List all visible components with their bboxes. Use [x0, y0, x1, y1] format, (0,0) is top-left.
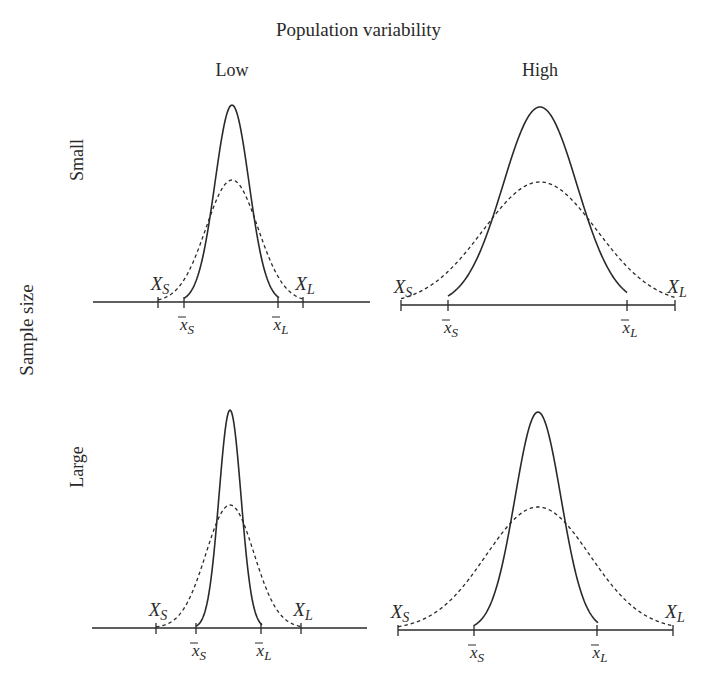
- tick-label-xbar-l: xL: [273, 315, 289, 337]
- tick-label-xbar-s: xS: [469, 643, 485, 665]
- tick-label-x-l: XL: [664, 601, 685, 625]
- sampling-curve-solid: [196, 410, 262, 626]
- sampling-curve-solid: [448, 107, 627, 296]
- population-curve-dashed: [401, 182, 675, 299]
- panel-small-low: XSXLxSxL: [93, 105, 370, 337]
- tick-label-x-s: XS: [390, 601, 410, 625]
- tick-label-xbar-s: xS: [191, 641, 207, 663]
- tick-label-xbar-l: xL: [592, 643, 608, 665]
- population-curve-dashed: [158, 180, 303, 300]
- tick-label-x-l: XL: [666, 276, 687, 300]
- tick-label-xbar-l: xL: [622, 318, 638, 340]
- tick-label-xbar-s: xS: [443, 318, 459, 340]
- panel-large-high: XSXLxSxL: [390, 412, 685, 665]
- panel-large-low: XSXLxSxL: [92, 410, 367, 663]
- tick-label-x-s: XS: [148, 599, 168, 623]
- tick-label-xbar-s: xS: [179, 315, 195, 337]
- tick-label-x-l: XL: [292, 599, 313, 623]
- panel-small-high: XSXLxSxL: [393, 107, 687, 340]
- population-curve-dashed: [156, 505, 301, 627]
- tick-label-x-l: XL: [294, 273, 315, 297]
- population-curve-dashed: [398, 507, 673, 627]
- distribution-grid: XSXLxSxL XSXLxSxL XSXLxSxL XSXLxSxL: [0, 0, 717, 680]
- tick-label-xbar-l: xL: [256, 641, 272, 663]
- sampling-curve-solid: [474, 412, 598, 625]
- tick-label-x-s: XS: [150, 273, 170, 297]
- sampling-curve-solid: [184, 105, 279, 298]
- tick-label-x-s: XS: [393, 276, 413, 300]
